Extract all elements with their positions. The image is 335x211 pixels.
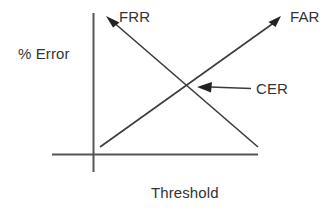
far-line xyxy=(100,22,275,147)
frr-line xyxy=(112,21,258,147)
frr-label: FRR xyxy=(119,9,150,25)
cer-pointer-line xyxy=(210,87,251,89)
cer-label: CER xyxy=(256,81,288,97)
diagram-canvas xyxy=(0,0,335,211)
y-axis-label: % Error xyxy=(18,46,70,62)
far-label: FAR xyxy=(290,9,319,25)
cer-arrowhead-icon xyxy=(197,82,212,93)
error-rate-diagram: % Error Threshold FRR FAR CER xyxy=(0,0,335,211)
x-axis-label: Threshold xyxy=(151,185,219,201)
